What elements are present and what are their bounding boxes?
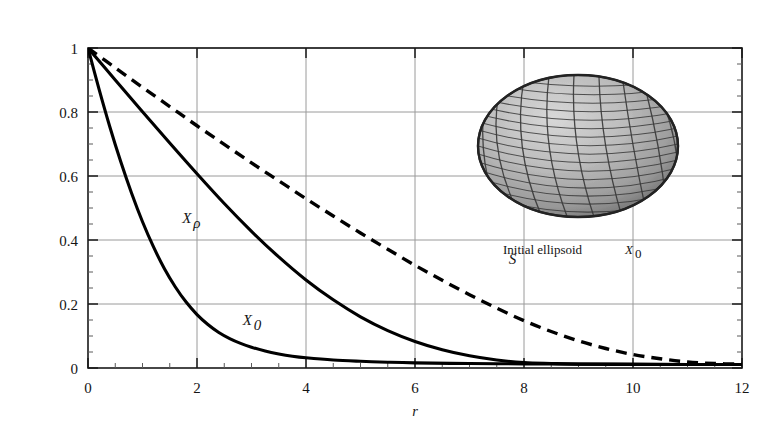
x-tick-label: 4 <box>302 380 310 396</box>
x-tick-label: 0 <box>84 380 92 396</box>
x-tick-label: 10 <box>626 380 641 396</box>
x-tick-label: 2 <box>193 380 201 396</box>
y-tick-label: 0.4 <box>59 233 78 249</box>
x-tick-label: 6 <box>411 380 419 396</box>
x-axis-label: r <box>412 403 418 419</box>
y-tick-label: 0.2 <box>59 297 78 313</box>
y-tick-label: 0.8 <box>59 105 78 121</box>
x-tick-label: 12 <box>735 380 750 396</box>
x-tick-label: 8 <box>520 380 528 396</box>
series-label-X0-symbol: X <box>242 312 253 328</box>
y-tick-label: 0.6 <box>59 169 78 185</box>
inset-caption-text: Initial ellipsoid <box>503 242 583 257</box>
figure-container: Set covariances: Initial Ellipsoid X0, t… <box>0 0 761 430</box>
y-tick-label: 0 <box>71 361 79 377</box>
y-tick-label: 1 <box>71 41 79 57</box>
series-label-Xrho-symbol: X <box>181 210 192 226</box>
series-label-Xrho-subscript: ρ <box>192 215 200 231</box>
plot-area: 1 0.8 0.6 0.4 0.2 0 0 2 4 6 8 10 12 r <box>0 0 761 430</box>
series-label-X0-subscript: 0 <box>254 317 262 333</box>
inset-caption-subscript: 0 <box>635 246 642 261</box>
inset-caption-symbol: X <box>624 242 634 257</box>
